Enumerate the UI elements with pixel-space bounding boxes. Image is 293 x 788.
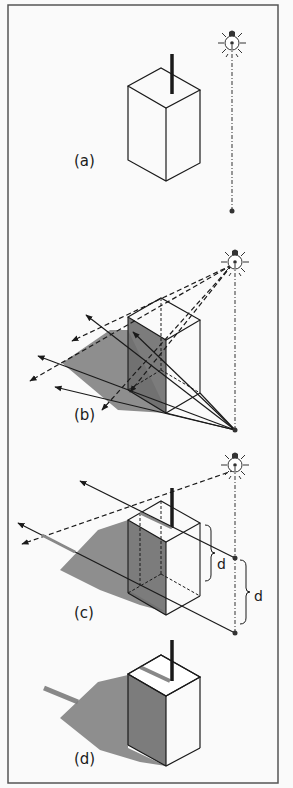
panel-label-a: (a) (74, 152, 95, 170)
panel-label-d: (d) (74, 750, 95, 768)
dimension-label-d2: d (254, 588, 263, 604)
shadow-construction-diagram: (a) (0, 0, 293, 788)
panel-d: (d) (44, 640, 200, 768)
dimension-label-d1: d (217, 556, 226, 572)
light-bulb-icon (221, 453, 249, 480)
panel-label-b: (b) (74, 406, 95, 424)
light-foot-point-a (230, 209, 235, 214)
light-bulb-icon (221, 250, 249, 277)
pole-shadow-d (44, 688, 78, 702)
panel-label-c: (c) (74, 604, 94, 622)
panel-a: (a) (74, 31, 246, 214)
light-foot-point-b (233, 428, 238, 433)
panel-b: (b) (30, 250, 249, 433)
brace-d-box (205, 525, 215, 581)
pole-shadow-top-c (140, 513, 172, 528)
brace-d-light (240, 560, 250, 624)
panel-c: d d (c) (18, 453, 263, 636)
light-bulb-icon (218, 31, 246, 58)
box-a (128, 68, 200, 181)
